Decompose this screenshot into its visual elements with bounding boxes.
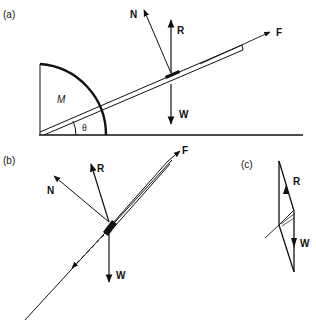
force-W-arrowhead (291, 238, 297, 248)
angle-arc (73, 121, 76, 135)
physics-diagram: (a) M F N R W θ (b) F (0, 0, 316, 335)
panel-c: (c) R W (241, 159, 310, 272)
panel-a: (a) M F N R W θ (3, 9, 303, 135)
quadrant-arc (40, 64, 106, 135)
force-N-arrow (144, 10, 171, 73)
panel-c-label: (c) (241, 159, 253, 170)
triangle-side-R (279, 161, 294, 211)
force-W-label: W (179, 109, 189, 120)
bead (103, 220, 117, 236)
force-W-label: W (300, 238, 310, 249)
force-N-label: N (130, 9, 137, 20)
force-N-label: N (47, 185, 54, 196)
force-N-arrow (54, 176, 109, 222)
angle-label: θ (82, 122, 87, 133)
mass-label: M (57, 94, 66, 105)
force-F-arrow (168, 151, 180, 161)
panel-b: (b) F N R W (3, 145, 188, 320)
force-F-arrow (200, 32, 270, 64)
force-F-label: F (182, 145, 188, 156)
triangle-side (279, 225, 294, 272)
rod-upper-edge (40, 45, 242, 132)
force-R-label: R (293, 176, 301, 187)
force-F-label: F (276, 27, 282, 38)
panel-b-label: (b) (3, 155, 15, 166)
force-R-label: R (177, 25, 185, 36)
panel-a-label: (a) (3, 9, 15, 20)
force-W-label: W (116, 270, 126, 281)
force-R-label: R (97, 163, 105, 174)
